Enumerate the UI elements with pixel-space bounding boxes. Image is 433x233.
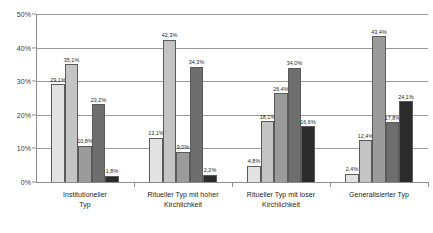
bar-column[interactable]: 34,0%	[288, 14, 302, 182]
bar-value-label: 17,8%	[385, 115, 401, 121]
bar[interactable]	[345, 174, 359, 182]
bar-column[interactable]: 16,6%	[301, 14, 315, 182]
bar-value-label: 43,4%	[371, 29, 387, 35]
bar-chart: 0%10%20%30%40%50%29,1%35,1%10,8%23,2%1,8…	[0, 0, 433, 233]
y-axis-tick-label: 50%	[17, 11, 36, 18]
bar[interactable]	[301, 126, 315, 182]
y-axis-tick-label: 30%	[17, 78, 36, 85]
bar[interactable]	[149, 138, 163, 182]
x-axis-end-tick	[428, 182, 429, 187]
x-axis-group-separator	[232, 182, 233, 187]
bar-value-label: 26,4%	[273, 86, 289, 92]
bar-column[interactable]: 34,3%	[190, 14, 204, 182]
x-axis-category-label: Ritueller Typ mit loser Kirchlichkeit	[232, 190, 330, 210]
y-axis-tick-label: 0%	[21, 179, 36, 186]
bar-value-label: 10,8%	[77, 138, 93, 144]
bar[interactable]	[51, 84, 65, 182]
bar[interactable]	[92, 104, 106, 182]
bar-value-label: 34,0%	[287, 60, 303, 66]
y-axis-tick-label: 40%	[17, 44, 36, 51]
x-axis-category-label: Ritueller Typ mit hoher Kirchlichkeit	[134, 190, 232, 210]
bar-group: 2,4%12,4%43,4%17,8%24,1%	[330, 14, 428, 182]
bar-column[interactable]: 23,2%	[92, 14, 106, 182]
bar[interactable]	[274, 93, 288, 182]
bar-value-label: 16,6%	[300, 119, 316, 125]
bar-column[interactable]: 26,4%	[274, 14, 288, 182]
plot-area: 0%10%20%30%40%50%29,1%35,1%10,8%23,2%1,8…	[36, 14, 428, 182]
bar-column[interactable]: 2,4%	[345, 14, 359, 182]
bar[interactable]	[261, 121, 275, 182]
x-axis-category-label: Generalisierter Typ	[330, 190, 428, 200]
bar[interactable]	[176, 152, 190, 182]
bar-value-label: 35,1%	[64, 57, 80, 63]
bar[interactable]	[65, 64, 79, 182]
bar[interactable]	[203, 175, 217, 182]
bar-value-label: 2,2%	[204, 167, 217, 173]
y-axis-tick-label: 10%	[17, 145, 36, 152]
bar-value-label: 2,4%	[346, 166, 359, 172]
bar-value-label: 4,8%	[248, 158, 261, 164]
bar-value-label: 29,1%	[50, 77, 66, 83]
bar-value-label: 9,0%	[177, 144, 190, 150]
bar-value-label: 13,1%	[148, 130, 164, 136]
bar[interactable]	[399, 101, 413, 182]
bar-value-label: 34,3%	[189, 59, 205, 65]
bar-column[interactable]: 4,8%	[247, 14, 261, 182]
bar-column[interactable]: 43,4%	[372, 14, 386, 182]
bar-column[interactable]: 1,8%	[105, 14, 119, 182]
y-axis-tick-label: 20%	[17, 111, 36, 118]
x-axis-group-separator	[330, 182, 331, 187]
bar[interactable]	[78, 146, 92, 182]
bar-column[interactable]: 24,1%	[399, 14, 413, 182]
bar[interactable]	[288, 68, 302, 182]
bar-column[interactable]: 17,8%	[386, 14, 400, 182]
bar[interactable]	[247, 166, 261, 182]
bar-value-label: 24,1%	[398, 94, 414, 100]
bar[interactable]	[372, 36, 386, 182]
bar[interactable]	[190, 67, 204, 182]
bar-column[interactable]: 13,1%	[149, 14, 163, 182]
x-axis-category-label: Institutioneller Typ	[36, 190, 134, 210]
bar-value-label: 18,1%	[260, 114, 276, 120]
bar-value-label: 1,8%	[106, 168, 119, 174]
bar[interactable]	[105, 176, 119, 182]
bar-group: 13,1%42,3%9,0%34,3%2,2%	[134, 14, 232, 182]
bar[interactable]	[359, 140, 373, 182]
bar[interactable]	[163, 40, 177, 182]
bar-column[interactable]: 18,1%	[261, 14, 275, 182]
bar-value-label: 12,4%	[358, 133, 374, 139]
bar-value-label: 42,3%	[162, 32, 178, 38]
x-axis-group-separator	[134, 182, 135, 187]
bar-group: 29,1%35,1%10,8%23,2%1,8%	[36, 14, 134, 182]
bar-column[interactable]: 9,0%	[176, 14, 190, 182]
bar-group: 4,8%18,1%26,4%34,0%16,6%	[232, 14, 330, 182]
bar-column[interactable]: 2,2%	[203, 14, 217, 182]
bar[interactable]	[386, 122, 400, 182]
bar-column[interactable]: 29,1%	[51, 14, 65, 182]
bar-column[interactable]: 12,4%	[359, 14, 373, 182]
bar-value-label: 23,2%	[91, 97, 107, 103]
bar-column[interactable]: 10,8%	[78, 14, 92, 182]
bar-column[interactable]: 35,1%	[65, 14, 79, 182]
bar-column[interactable]: 42,3%	[163, 14, 177, 182]
